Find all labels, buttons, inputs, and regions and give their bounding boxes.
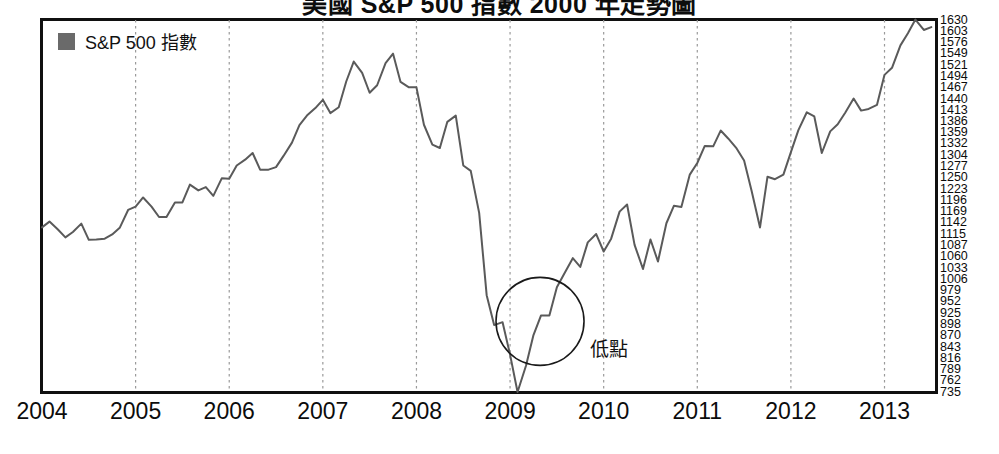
x-axis-tick-label: 2008	[391, 398, 442, 425]
x-axis-tick-labels: 2004200520062007200820092010201120122013	[0, 398, 999, 432]
x-axis-tick-label: 2013	[859, 398, 910, 425]
data-series-group	[42, 20, 931, 392]
x-axis-tick-label: 2009	[485, 398, 536, 425]
chart-plot-svg	[0, 0, 999, 454]
legend-swatch-icon	[58, 33, 75, 50]
data-series-line	[42, 20, 931, 392]
x-axis-tick-label: 2006	[204, 398, 255, 425]
x-axis-tick-label: 2005	[110, 398, 161, 425]
x-axis-tick-label: 2007	[297, 398, 348, 425]
legend-item-label: S&P 500 指數	[85, 28, 197, 54]
x-axis-tick-label: 2011	[673, 398, 722, 425]
x-axis-tick-label: 2012	[765, 398, 816, 425]
x-axis-tick-label: 2010	[578, 398, 629, 425]
annotation-circle-low-point	[496, 277, 584, 365]
x-axis-tick-label: 2004	[16, 398, 67, 425]
chart-legend: S&P 500 指數	[58, 28, 197, 54]
annotations-group	[496, 277, 584, 365]
y-axis-tick-labels: 1630160315761549152114941467144014131386…	[940, 18, 998, 394]
y-axis-tick-label: 735	[940, 387, 961, 398]
annotation-label-low-point: 低點	[590, 334, 628, 361]
gridlines-group	[136, 20, 885, 392]
chart-container: 美國 S&P 500 指數 2000 年走勢圖 S&P 500 指數 16301…	[0, 0, 999, 454]
